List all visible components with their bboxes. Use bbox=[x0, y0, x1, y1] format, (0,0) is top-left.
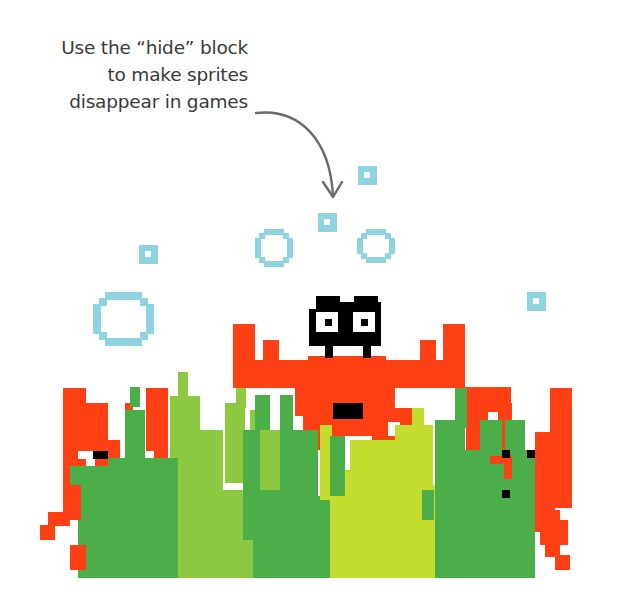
pixel-block bbox=[93, 540, 118, 578]
pixel-block bbox=[420, 340, 436, 388]
pixel-block bbox=[325, 319, 332, 326]
arrow-curve bbox=[256, 112, 333, 196]
large-bubble-icon bbox=[93, 292, 154, 346]
medium-bubble-2-icon bbox=[357, 229, 395, 263]
pixel-block bbox=[108, 458, 178, 578]
game-scene bbox=[0, 0, 623, 604]
pixel-block bbox=[146, 451, 154, 459]
pixel-block bbox=[340, 296, 354, 302]
pixel-block bbox=[308, 356, 386, 388]
pixel-block bbox=[555, 555, 570, 570]
pixel-block bbox=[354, 296, 378, 304]
pixel-block bbox=[435, 420, 465, 578]
pixel-block bbox=[540, 530, 552, 545]
pixel-block bbox=[361, 319, 368, 326]
pixel-block bbox=[502, 490, 510, 498]
pixel-block bbox=[465, 450, 535, 578]
arrow-icon bbox=[256, 112, 342, 197]
pixel-block bbox=[480, 420, 502, 460]
pixel-block bbox=[78, 451, 93, 459]
pixel-block bbox=[70, 545, 86, 570]
pixel-block bbox=[255, 395, 270, 435]
pixel-block bbox=[93, 451, 108, 459]
pixel-block bbox=[527, 450, 535, 458]
pixel-block bbox=[502, 450, 510, 458]
pixel-block bbox=[130, 387, 140, 407]
pixel-block bbox=[443, 324, 465, 388]
small-bubble-1-icon bbox=[358, 166, 377, 185]
pixel-block bbox=[505, 420, 525, 455]
small-bubble-4-icon bbox=[527, 292, 546, 311]
pixel-block bbox=[325, 340, 333, 358]
pixel-block bbox=[333, 403, 363, 419]
pixel-block bbox=[228, 540, 253, 578]
pixel-block bbox=[316, 296, 340, 304]
pixel-block bbox=[309, 302, 316, 309]
pixel-block bbox=[455, 388, 467, 428]
pixel-block bbox=[40, 525, 55, 540]
pixel-block bbox=[330, 436, 345, 496]
pixel-block bbox=[260, 430, 280, 490]
pixel-block bbox=[318, 496, 330, 578]
pixel-block bbox=[236, 388, 246, 408]
small-bubble-2-icon bbox=[318, 213, 337, 232]
pixel-block bbox=[422, 490, 434, 520]
pixel-block bbox=[550, 520, 568, 545]
pixel-block bbox=[363, 340, 371, 358]
pixel-block bbox=[48, 512, 70, 526]
medium-bubble-1-icon bbox=[255, 229, 293, 267]
small-bubble-3-icon bbox=[139, 245, 158, 264]
pixel-block bbox=[333, 346, 363, 356]
pixel-block bbox=[225, 403, 245, 483]
pixel-block bbox=[412, 408, 424, 438]
pixel-block bbox=[280, 395, 293, 455]
